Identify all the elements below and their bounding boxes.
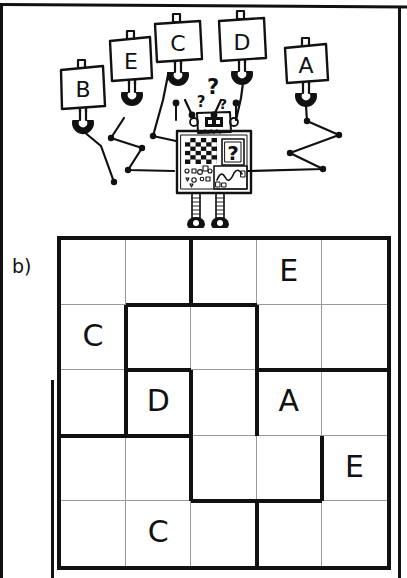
cell-r3c4[interactable]: A (257, 370, 322, 435)
question-panel-label: ? (227, 141, 239, 165)
puzzle-grid: E C D A E C (57, 236, 391, 570)
cell-r3c2[interactable]: D (126, 370, 191, 435)
cell-r5c2[interactable]: C (126, 501, 191, 566)
shapes-icon (185, 166, 212, 187)
cell-r4c3[interactable] (191, 436, 256, 501)
robot-illustration: B E C D A ? ? ? ? (0, 8, 407, 228)
cell-value: D (147, 386, 170, 416)
cell-r2c2[interactable] (126, 305, 191, 370)
sign-a-label: A (298, 53, 313, 78)
robot (173, 100, 251, 228)
cell-value: E (279, 256, 298, 286)
cell-r2c3[interactable] (191, 305, 256, 370)
cell-r3c3[interactable] (191, 370, 256, 435)
wire-a (248, 90, 339, 171)
cell-r1c1[interactable] (61, 240, 126, 305)
cell-r4c1[interactable] (61, 436, 126, 501)
puzzle-label: b) (12, 255, 31, 277)
cell-r1c3[interactable] (191, 240, 256, 305)
cell-r1c5[interactable] (322, 240, 387, 305)
cell-r4c5[interactable]: E (322, 436, 387, 501)
cell-value: C (83, 321, 104, 351)
cell-r5c4[interactable] (257, 501, 322, 566)
cell-r5c3[interactable] (191, 501, 256, 566)
thought-mark-large: ? (207, 75, 219, 99)
cell-r4c4[interactable] (257, 436, 322, 501)
cell-r1c4[interactable]: E (257, 240, 322, 305)
cell-value: E (345, 452, 364, 482)
waveform-icon (214, 166, 247, 189)
checkerboard-icon (185, 138, 217, 164)
page-inner-left-rule (51, 380, 54, 578)
thought-mark-left: ? (197, 93, 206, 111)
cell-r5c5[interactable] (322, 501, 387, 566)
cell-value: C (148, 517, 169, 547)
sign-d-label: D (234, 30, 251, 55)
sign-b-label: B (75, 77, 90, 102)
wire-e (111, 118, 174, 171)
thought-marks: ? ? ? (197, 75, 227, 112)
sign-e-label: E (124, 49, 138, 74)
cell-r4c2[interactable] (126, 436, 191, 501)
robot-legs (187, 193, 229, 228)
puzzle-page: B E C D A ? ? ? ? b) E C (0, 0, 407, 578)
cell-r1c2[interactable] (126, 240, 191, 305)
cell-r3c5[interactable] (322, 370, 387, 435)
cell-value: A (278, 386, 299, 416)
thought-mark-right: ? (219, 96, 227, 112)
cell-r2c1[interactable]: C (61, 305, 126, 370)
cell-r2c4[interactable] (257, 305, 322, 370)
puzzle-grid-wrapper: E C D A E C (57, 236, 391, 570)
cell-r2c5[interactable] (322, 305, 387, 370)
cell-r3c1[interactable] (61, 370, 126, 435)
sign-c-label: C (170, 31, 185, 56)
grid-cells: E C D A E C (61, 240, 387, 566)
cell-r5c1[interactable] (61, 501, 126, 566)
